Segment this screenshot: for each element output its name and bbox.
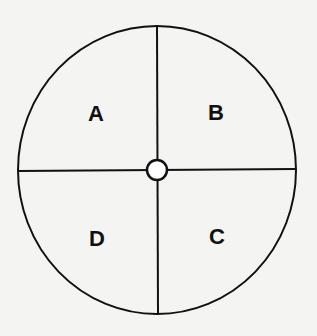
quadrant-label-b: B	[208, 100, 224, 125]
quadrant-label-d: D	[89, 226, 105, 251]
quadrant-diagram: A B C D	[0, 0, 317, 336]
center-circle	[147, 160, 167, 180]
quadrant-label-c: C	[209, 224, 225, 249]
quadrant-label-a: A	[88, 101, 104, 126]
